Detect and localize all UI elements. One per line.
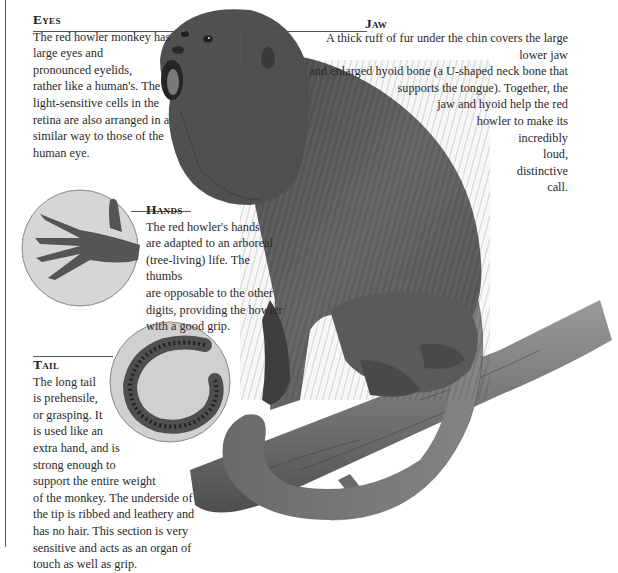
jaw-leader-line-vertical — [240, 31, 241, 64]
tail-body: The long tail is prehensile, or grasping… — [33, 374, 233, 573]
hands-body: The red howler's hands are adapted to an… — [146, 219, 286, 335]
jaw-heading: Jaw — [365, 16, 387, 31]
eyes-heading: Eyes — [33, 12, 61, 27]
hands-annotation: Hands The red howler's hands are adapted… — [146, 202, 286, 335]
jaw-annotation: Jaw A thick ruff of fur under the chin c… — [300, 16, 568, 196]
tail-heading: Tail — [33, 357, 59, 372]
tail-annotation: Tail The long tail is prehensile, or gra… — [33, 357, 233, 573]
jaw-body: A thick ruff of fur under the chin cover… — [300, 16, 568, 196]
hands-heading: Hands — [146, 202, 183, 217]
eyes-body: The red howler monkey has large eyes and… — [33, 29, 193, 162]
eyes-annotation: Eyes The red howler monkey has large eye… — [33, 12, 193, 161]
hand-inset — [22, 190, 140, 306]
